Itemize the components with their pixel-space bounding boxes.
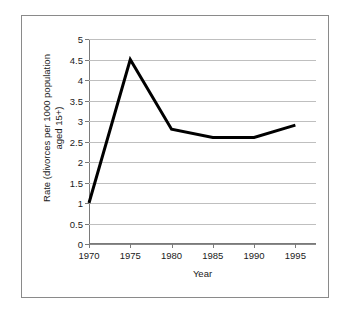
y-tick-label: 4 bbox=[78, 75, 83, 86]
y-tick-label: 2 bbox=[78, 157, 83, 168]
plot-area: 00.511.522.533.544.55 197019751980198519… bbox=[89, 39, 316, 244]
x-tick-mark bbox=[254, 244, 255, 248]
y-tick-label: 4.5 bbox=[70, 54, 83, 65]
x-tick-label: 1995 bbox=[285, 250, 306, 261]
chart-figure-frame: Rate (divorces per 1000 population aged … bbox=[21, 15, 329, 298]
gridline bbox=[89, 244, 316, 245]
y-tick-label: 3 bbox=[78, 116, 83, 127]
x-tick-mark bbox=[130, 244, 131, 248]
y-tick-label: 0.5 bbox=[70, 218, 83, 229]
x-tick-mark bbox=[89, 244, 90, 248]
x-tick-mark bbox=[295, 244, 296, 248]
x-tick-label: 1980 bbox=[161, 250, 182, 261]
y-tick-label: 2.5 bbox=[70, 136, 83, 147]
x-axis-title: Year bbox=[89, 268, 316, 279]
y-tick-label: 1.5 bbox=[70, 177, 83, 188]
x-tick-label: 1990 bbox=[244, 250, 265, 261]
x-tick-label: 1975 bbox=[120, 250, 141, 261]
y-tick-label: 3.5 bbox=[70, 95, 83, 106]
y-tick-label: 1 bbox=[78, 198, 83, 209]
x-tick-label: 1985 bbox=[202, 250, 223, 261]
x-tick-mark bbox=[213, 244, 214, 248]
y-tick-label: 5 bbox=[78, 34, 83, 45]
x-tick-mark bbox=[172, 244, 173, 248]
y-tick-label: 0 bbox=[78, 239, 83, 250]
x-tick-label: 1970 bbox=[78, 250, 99, 261]
data-series-line bbox=[89, 39, 316, 244]
y-axis-title: Rate (divorces per 1000 population aged … bbox=[41, 41, 65, 216]
